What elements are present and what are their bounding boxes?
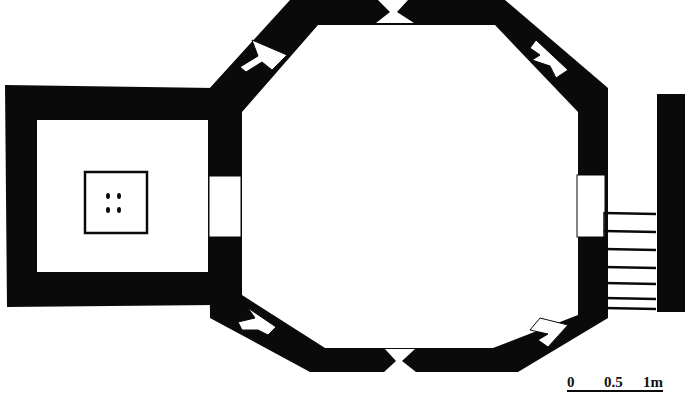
scale-label-half: 0.5 — [604, 374, 623, 390]
east-staircase — [604, 212, 656, 310]
floor-plan: 0 0.5 1m — [0, 0, 699, 405]
west-doorway — [209, 176, 241, 237]
east-wall-pier — [657, 94, 685, 312]
scale-label-0: 0 — [567, 374, 575, 390]
scale-label-1m: 1m — [643, 374, 664, 390]
scale-bar: 0 0.5 1m — [567, 374, 664, 391]
east-doorway — [577, 175, 605, 237]
annex-platform — [85, 172, 147, 233]
diagonal-windows — [238, 40, 568, 347]
